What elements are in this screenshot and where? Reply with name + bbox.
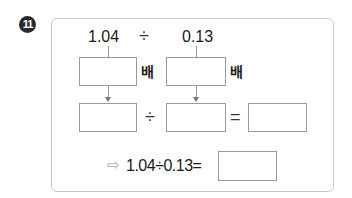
divisor-value: 0.13	[182, 28, 213, 46]
divide-sign-middle: ÷	[145, 108, 155, 126]
divisor-times-label: 배	[230, 63, 243, 81]
divisor-down-arrow-icon	[193, 97, 199, 102]
divide-sign-top: ÷	[139, 27, 149, 45]
dividend-times-label: 배	[141, 63, 154, 81]
dividend-multiplier-input-box[interactable]	[79, 57, 137, 86]
dividend-connector-line	[108, 46, 109, 57]
problem-number-badge: 11	[19, 16, 36, 33]
equals-sign-middle: =	[230, 108, 241, 126]
divisor-multiplier-input-box[interactable]	[166, 57, 226, 86]
dividend-value: 1.04	[88, 28, 119, 46]
divisor-connector-line	[196, 46, 197, 57]
hint-arrow-icon: ⇨	[107, 156, 120, 174]
dividend-down-arrow-icon	[105, 97, 111, 102]
scaled-dividend-input-box[interactable]	[79, 103, 137, 132]
scaled-quotient-input-box[interactable]	[248, 103, 307, 132]
final-answer-input-box[interactable]	[218, 151, 277, 181]
scaled-divisor-input-box[interactable]	[166, 103, 226, 132]
summary-expression: 1.04÷0.13=	[126, 157, 201, 175]
